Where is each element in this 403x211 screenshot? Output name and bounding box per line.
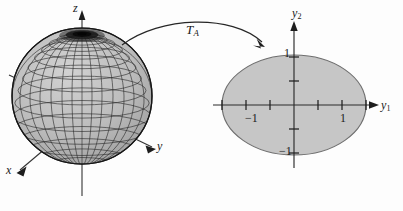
axis-y1-label-sub: 1 — [386, 104, 390, 113]
axis-y2-label: y2 — [292, 7, 302, 21]
tick-label-x-negative-one: −1 — [245, 112, 258, 124]
axis-x-label: x — [6, 164, 11, 176]
plane-panel — [0, 0, 403, 211]
axis-y1-label: y1 — [381, 99, 391, 113]
tick-label-y-positive-one: 1 — [284, 47, 290, 59]
linear-transformation-figure: z y x TA y1 y2 −1 1 1 −1 — [0, 0, 403, 211]
tick-label-x-positive-one: 1 — [340, 112, 346, 124]
transformation-label: TA — [186, 23, 199, 38]
axis-y2-label-sub: 2 — [297, 12, 301, 21]
axis-z-label: z — [73, 2, 78, 14]
axis-y-label: y — [157, 140, 162, 152]
transformation-label-sub: A — [193, 28, 198, 38]
tick-label-y-negative-one: −1 — [279, 145, 292, 157]
